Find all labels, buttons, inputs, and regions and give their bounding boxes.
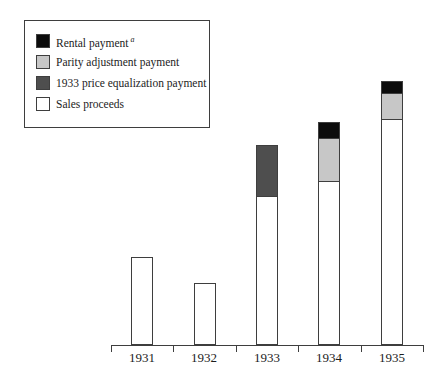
x-tick-label-1933: 1933 bbox=[236, 351, 298, 365]
bar-segment-sales-1935 bbox=[382, 119, 402, 344]
x-tick-label-1934: 1934 bbox=[298, 351, 360, 365]
legend-label-sales-proceeds: Sales proceeds bbox=[56, 97, 124, 111]
legend-text: Rental payment bbox=[56, 36, 129, 48]
bar-segment-rental-1935 bbox=[382, 82, 402, 93]
bar-1933 bbox=[256, 145, 278, 345]
bar-1934 bbox=[318, 122, 340, 345]
bar-segment-sales-1932 bbox=[195, 284, 215, 344]
x-tick-label-1935: 1935 bbox=[361, 351, 423, 365]
legend-item-sales-proceeds: Sales proceeds bbox=[36, 97, 205, 111]
bar-segment-sales-1933 bbox=[257, 196, 277, 344]
legend-text: Parity adjustment payment bbox=[56, 56, 179, 68]
sales-proceeds-swatch bbox=[36, 97, 50, 111]
legend-item-parity-adjustment: Parity adjustment payment bbox=[36, 55, 205, 69]
bar-1935 bbox=[381, 81, 403, 345]
bar-segment-sales-1934 bbox=[319, 181, 339, 344]
footnote-marker: a bbox=[131, 35, 135, 44]
legend-item-price-equalization: 1933 price equalization payment bbox=[36, 76, 205, 90]
price-equalization-swatch bbox=[36, 76, 50, 90]
bar-1932 bbox=[194, 283, 216, 345]
bar-segment-parity-1935 bbox=[382, 93, 402, 119]
bar-segment-rental-1934 bbox=[319, 123, 339, 138]
x-tick-label-1932: 1932 bbox=[173, 351, 235, 365]
legend-label-parity-adjustment: Parity adjustment payment bbox=[56, 55, 179, 69]
bar-segment-equalization-1933 bbox=[257, 146, 277, 196]
x-axis-tick bbox=[423, 345, 424, 352]
figure: Rental paymenta Parity adjustment paymen… bbox=[0, 0, 444, 376]
x-axis bbox=[111, 345, 424, 346]
legend-label-rental-payment: Rental paymenta bbox=[56, 33, 135, 50]
legend-label-price-equalization: 1933 price equalization payment bbox=[56, 76, 206, 90]
x-tick-label-1931: 1931 bbox=[111, 351, 173, 365]
legend-box: Rental paymenta Parity adjustment paymen… bbox=[24, 20, 210, 128]
bar-segment-parity-1934 bbox=[319, 138, 339, 181]
legend-item-rental-payment: Rental paymenta bbox=[36, 34, 205, 48]
bar-segment-sales-1931 bbox=[132, 258, 152, 344]
legend-text: 1933 price equalization payment bbox=[56, 77, 206, 89]
bar-1931 bbox=[131, 257, 153, 345]
parity-adjustment-swatch bbox=[36, 55, 50, 69]
legend-text: Sales proceeds bbox=[56, 98, 124, 110]
rental-payment-swatch bbox=[36, 34, 50, 48]
